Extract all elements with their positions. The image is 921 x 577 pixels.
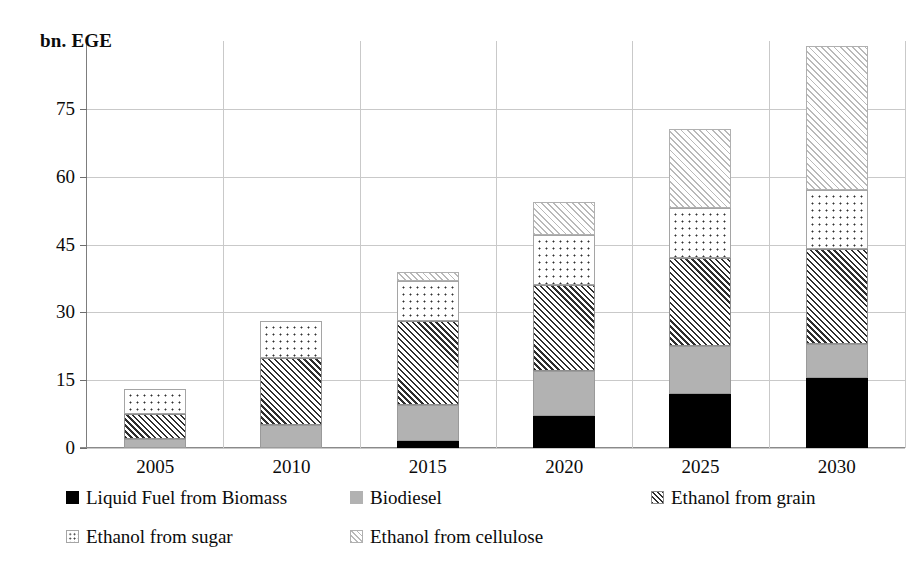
x-axis-tick-label: 2030 [818, 456, 856, 478]
bar-segment [806, 378, 868, 448]
bar-segment [533, 416, 595, 448]
y-axis-tick-mark [80, 109, 87, 110]
bar-segment [533, 202, 595, 236]
y-axis-tick-label: 0 [66, 437, 76, 459]
chart-figure: bn. EGE 01530456075 Liquid Fuel from Bio… [0, 0, 921, 577]
legend-swatch-icon-gray [350, 491, 363, 504]
bar-group [769, 41, 905, 448]
legend-swatch-icon-dots [66, 530, 79, 543]
bar-segment [397, 405, 459, 441]
bar-group [87, 41, 223, 448]
y-axis-tick-label: 30 [56, 301, 75, 323]
legend-item-liquid-fuel-from-biomass: Liquid Fuel from Biomass [66, 488, 287, 507]
y-axis-title: bn. EGE [40, 30, 112, 52]
x-axis-tick-label: 2005 [136, 456, 174, 478]
bar-segment [260, 358, 322, 426]
legend-label: Liquid Fuel from Biomass [86, 488, 287, 507]
bar-group [223, 41, 359, 448]
legend-item-ethanol-from-cellulose: Ethanol from cellulose [350, 527, 543, 546]
bar-group [632, 41, 768, 448]
bar-segment [260, 321, 322, 357]
bar-segment [397, 272, 459, 281]
bar-segment [806, 190, 868, 249]
legend-label: Ethanol from sugar [86, 527, 233, 546]
bar-segment [806, 249, 868, 344]
bar-segment [806, 46, 868, 191]
y-axis-tick-label: 15 [56, 369, 75, 391]
legend-item-ethanol-from-sugar: Ethanol from sugar [66, 527, 233, 546]
legend-item-biodiesel: Biodiesel [350, 488, 442, 507]
bar-segment [669, 208, 731, 258]
legend-swatch-icon-hatch [651, 491, 664, 504]
x-axis-tick-label: 2025 [682, 456, 720, 478]
legend-item-ethanol-from-grain: Ethanol from grain [651, 488, 816, 507]
gridline-vertical [905, 41, 906, 448]
y-axis-tick-label: 60 [56, 166, 75, 188]
bar-segment [260, 425, 322, 448]
legend-swatch-icon-black [66, 491, 79, 504]
bar-segment [806, 344, 868, 378]
x-axis-tick-label: 2015 [409, 456, 447, 478]
bar-segment [397, 321, 459, 405]
y-axis-tick-mark [80, 245, 87, 246]
y-axis-tick-mark [80, 448, 87, 449]
x-axis-tick-label: 2020 [545, 456, 583, 478]
legend-swatch-icon-lighthatch [350, 530, 363, 543]
bar-segment [397, 441, 459, 448]
bar-group [496, 41, 632, 448]
bar-segment [124, 414, 186, 439]
legend-label: Ethanol from cellulose [370, 527, 543, 546]
legend-label: Biodiesel [370, 488, 442, 507]
chart-legend: Liquid Fuel from Biomass Biodiesel Ethan… [0, 484, 921, 574]
bar-segment [124, 389, 186, 414]
bar-segment [533, 371, 595, 416]
plot-area: 01530456075 [87, 41, 905, 448]
bar-segment [124, 439, 186, 448]
bar-segment [397, 281, 459, 322]
bar-segment [533, 285, 595, 371]
y-axis-tick-mark [80, 312, 87, 313]
bar-segment [669, 258, 731, 346]
legend-label: Ethanol from grain [671, 488, 816, 507]
bar-group [360, 41, 496, 448]
gridline-horizontal [87, 448, 905, 449]
y-axis-tick-label: 75 [56, 98, 75, 120]
y-axis-tick-mark [80, 380, 87, 381]
y-axis-tick-mark [80, 177, 87, 178]
bar-segment [669, 129, 731, 208]
bar-segment [669, 346, 731, 393]
bar-segment [669, 394, 731, 448]
bar-segment [533, 235, 595, 285]
y-axis-tick-label: 45 [56, 234, 75, 256]
x-axis-tick-label: 2010 [273, 456, 311, 478]
